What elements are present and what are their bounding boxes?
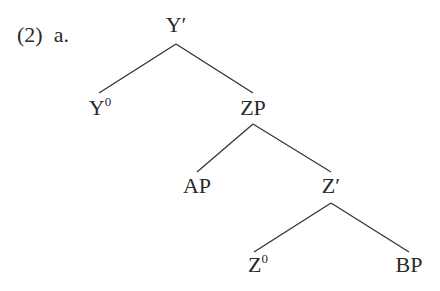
node-y-head-label: Y — [89, 95, 105, 120]
node-z-bar: Z′ — [322, 173, 340, 199]
edge-zp-ap — [197, 124, 253, 172]
node-y-head-superscript: 0 — [105, 94, 112, 109]
edge-zbar-zhead — [254, 203, 331, 252]
node-z-head-superscript: 0 — [261, 251, 268, 266]
node-zp-label: ZP — [240, 95, 266, 120]
edge-zp-zbar — [253, 124, 331, 172]
node-zp: ZP — [240, 95, 266, 121]
node-bp: BP — [396, 252, 423, 278]
node-z-head-label: Z — [248, 252, 261, 277]
node-bp-label: BP — [396, 252, 423, 277]
edge-zbar-bp — [331, 203, 409, 252]
node-z-head: Z0 — [248, 252, 268, 278]
tree-branches — [0, 0, 440, 291]
node-ap-label: AP — [183, 173, 211, 198]
node-ap: AP — [183, 173, 211, 199]
edge-ybar-zp — [176, 44, 253, 93]
node-z-bar-label: Z′ — [322, 173, 340, 198]
node-y-bar: Y′ — [166, 12, 187, 38]
node-y-head: Y0 — [89, 95, 111, 121]
edge-ybar-yhead — [99, 44, 176, 93]
node-y-bar-label: Y′ — [166, 12, 187, 37]
